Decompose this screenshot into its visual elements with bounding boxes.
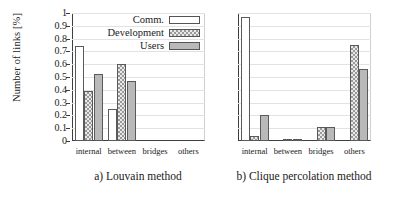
y-tick-mark xyxy=(66,51,70,52)
legend-swatch-users xyxy=(169,42,200,50)
legend-item-label: Development xyxy=(107,27,164,38)
y-tick-mark xyxy=(66,103,70,104)
y-tick-mark xyxy=(66,39,70,40)
y-tick-mark xyxy=(66,13,70,14)
legend-swatch-dev xyxy=(169,29,200,37)
legend-item-label: Comm. xyxy=(133,14,164,25)
y-axis-tick-labels: 00.10.20.30.40.50.60.70.80.91 xyxy=(30,0,70,197)
legend-item-dev: Development xyxy=(107,27,200,38)
bar-group xyxy=(238,13,371,141)
legend-swatch-comm xyxy=(169,16,200,24)
y-tick-mark xyxy=(66,115,70,116)
legend-item-label: Users xyxy=(140,40,164,51)
figure-bar-charts: Number of links [%] 00.10.20.30.40.50.60… xyxy=(0,0,395,197)
y-tick-mark xyxy=(66,141,70,142)
x-category-label: between xyxy=(108,146,136,156)
panel-b-category-labels: internalbetweenbridgesothers xyxy=(238,146,371,158)
legend-item-comm: Comm. xyxy=(133,14,200,25)
panel-a-caption: a) Louvain method xyxy=(94,170,182,182)
bar xyxy=(350,45,359,141)
x-category-label: internal xyxy=(76,146,102,156)
bar xyxy=(359,69,368,141)
panel-clique-percolation xyxy=(238,13,371,141)
y-tick-mark xyxy=(66,90,70,91)
y-tick-mark xyxy=(66,26,70,27)
x-category-label: between xyxy=(274,146,302,156)
x-category-label: bridges xyxy=(309,146,334,156)
x-category-label: bridges xyxy=(143,146,168,156)
y-tick-mark xyxy=(66,64,70,65)
y-axis-title: Number of links [%] xyxy=(11,0,22,128)
panel-b-bars xyxy=(238,13,371,141)
x-category-label: others xyxy=(178,146,199,156)
x-category-label: internal xyxy=(242,146,268,156)
y-tick-mark xyxy=(66,77,70,78)
panel-b-caption: b) Clique percolation method xyxy=(236,170,371,182)
panel-a-category-labels: internalbetweenbridgesothers xyxy=(72,146,205,158)
y-tick-mark xyxy=(66,128,70,129)
x-category-label: others xyxy=(344,146,365,156)
legend-item-users: Users xyxy=(140,40,200,51)
